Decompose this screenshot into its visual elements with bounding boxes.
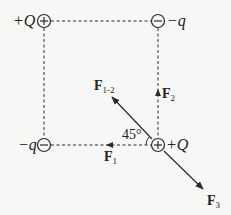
f1-arrowhead-icon	[106, 142, 113, 148]
charge-label-bottom-right: +Q	[166, 137, 188, 153]
charge-label-top-left: +Q	[13, 13, 35, 29]
charge-top-right	[152, 15, 165, 28]
f2-arrowhead-icon	[155, 89, 161, 96]
force-diagram: +Q −q −q +Q F1-2 F2 F1 F3 45°	[0, 0, 231, 215]
angle-arc	[146, 137, 150, 146]
force-label-f2: F2	[162, 87, 175, 103]
angle-label: 45°	[122, 128, 142, 142]
diagram-canvas	[0, 0, 231, 215]
force-label-f12: F1-2	[94, 79, 115, 95]
charge-bottom-right	[152, 139, 165, 152]
f3-arrow	[164, 151, 203, 189]
force-label-f3: F3	[207, 194, 220, 210]
charge-top-left	[38, 15, 51, 28]
charge-label-top-right: −q	[167, 13, 186, 29]
charge-bottom-left	[38, 139, 51, 152]
force-label-f1: F1	[104, 150, 117, 166]
charge-label-bottom-left: −q	[18, 137, 37, 153]
